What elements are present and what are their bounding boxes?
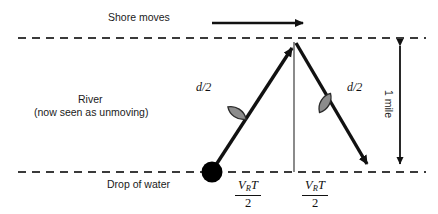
variable-t: T [318,178,325,192]
return-path-arrow [296,43,367,164]
vrt-over-2-left-label: VRT 2 [225,178,271,211]
d-over-2-left-label: d/2 [196,80,211,95]
outbound-path-arrow [212,48,292,171]
fraction-denominator: 2 [292,196,338,211]
variable-v: V [238,178,246,192]
variable-v: V [305,178,313,192]
d-over-2-right-label: d/2 [347,80,362,95]
drop-of-water-label: Drop of water [107,178,170,191]
fraction-denominator: 2 [225,196,271,211]
river-sublabel: (now seen as unmoving) [34,106,148,119]
boat-marker-outbound [225,103,248,123]
fraction-numerator: VRT [225,178,271,195]
shore-moves-label: Shore moves [108,11,170,24]
one-mile-label: 1 mile [383,90,395,104]
river-crossing-diagram: Shore moves River (now seen as unmoving)… [0,0,438,214]
fraction-numerator: VRT [292,178,338,195]
vrt-over-2-right-label: VRT 2 [292,178,338,211]
drop-of-water-dot [202,162,223,183]
river-label: River [78,93,103,106]
variable-t: T [251,178,258,192]
